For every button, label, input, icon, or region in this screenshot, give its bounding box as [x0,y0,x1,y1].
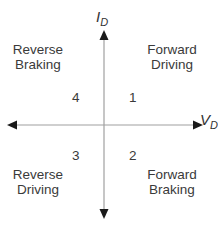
quadrant-2-number: 2 [129,148,137,163]
vertical-axis-label: ID [96,8,108,28]
quadrant-3-label: Reverse Driving [8,167,68,197]
arrow-down-icon [100,209,109,219]
quadrant-1-label: Forward Driving [141,42,203,72]
quadrant-4-label: Reverse Braking [8,42,68,72]
quadrant-2-label: Forward Braking [141,167,203,197]
arrow-up-icon [100,30,109,40]
quadrant-3-number: 3 [72,148,80,163]
arrow-left-icon [7,121,17,130]
quadrant-4-number: 4 [72,90,80,105]
quadrant-1-number: 1 [129,90,137,105]
horizontal-axis-label: VD [200,111,218,131]
